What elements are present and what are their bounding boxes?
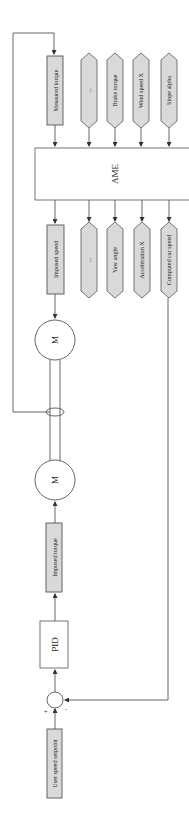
svg-text:PID: PID — [50, 637, 60, 652]
diagram-canvas: Measured torque ... Brake torque Wind sp… — [0, 0, 189, 823]
summing-junction: + - — [44, 692, 67, 715]
svg-text:User speed setpoint: User speed setpoint — [51, 739, 58, 788]
svg-text:Wind speed X: Wind speed X — [137, 72, 144, 108]
ame-label: AME — [110, 163, 120, 184]
svg-text:Yaw angle: Yaw angle — [111, 247, 118, 273]
imposed-speed-block: Imposed speed — [47, 225, 64, 294]
motor-top: M — [35, 320, 75, 360]
pid-block: PID — [40, 621, 68, 668]
svg-text:M: M — [50, 476, 60, 484]
svg-text:Computed car speed: Computed car speed — [165, 234, 172, 285]
svg-text:...: ... — [85, 88, 92, 93]
svg-text:Brake torque: Brake torque — [111, 74, 118, 106]
ame-output-acceleration-x: Acceleration X — [134, 222, 150, 298]
motor-bottom: M — [35, 460, 75, 500]
ame-input-wind-speed-x: Wind speed X — [133, 53, 149, 128]
user-speed-setpoint-block: User speed setpoint — [47, 729, 62, 798]
measured-torque-block: Measured torque — [47, 56, 63, 125]
svg-text:Imposed speed: Imposed speed — [52, 240, 59, 278]
svg-text:...: ... — [85, 257, 92, 262]
imposed-torque-block: Imposed torque — [46, 523, 62, 592]
ame-output-0: ... — [81, 222, 97, 298]
svg-text:M: M — [50, 336, 60, 344]
ame-input-slope-alpha: Slope alpha — [161, 53, 177, 128]
plus-sign: + — [44, 708, 48, 715]
minus-sign: - — [65, 705, 67, 712]
svg-text:Imposed torque: Imposed torque — [51, 538, 58, 577]
ame-output-yaw-angle: Yaw angle — [107, 222, 123, 298]
measured-torque-label: Measured torque — [52, 69, 59, 111]
ame-input-brake-torque: Brake torque — [107, 53, 123, 128]
ame-input-0: ... — [81, 53, 97, 128]
svg-text:Acceleration X: Acceleration X — [138, 241, 145, 279]
svg-text:Slope alpha: Slope alpha — [165, 76, 172, 105]
ame-block: AME — [35, 148, 189, 200]
ame-output-computed-car-speed: Computed car speed — [161, 222, 177, 298]
speed-feedback-line — [65, 298, 168, 700]
shaft — [50, 360, 60, 461]
